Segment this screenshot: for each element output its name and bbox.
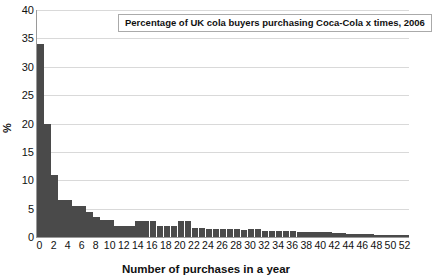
bar: [304, 232, 311, 237]
bar: [142, 221, 149, 237]
bar: [290, 231, 297, 237]
bar: [185, 221, 192, 237]
y-tick-label: 40: [12, 5, 34, 16]
bar: [395, 235, 402, 237]
bar: [367, 234, 374, 237]
bar: [248, 229, 255, 238]
y-tick-label: 5: [12, 203, 34, 214]
bar: [402, 235, 409, 237]
bar: [381, 235, 388, 237]
x-tick-label: 14: [132, 239, 144, 252]
bar: [164, 226, 171, 237]
bar: [325, 232, 332, 237]
x-tick-label: 44: [342, 239, 354, 252]
x-tick-label: 6: [79, 239, 85, 252]
y-tick-label: 25: [12, 90, 34, 101]
x-tick-label: 40: [314, 239, 326, 252]
bar: [114, 226, 121, 237]
bar: [339, 233, 346, 237]
bar: [37, 44, 44, 237]
x-tick-label: 42: [328, 239, 340, 252]
x-tick-label: 8: [93, 239, 99, 252]
x-tick-label: 34: [272, 239, 284, 252]
x-tick-label: 12: [118, 239, 130, 252]
y-tick-label: 0: [12, 232, 34, 243]
bar: [241, 230, 248, 237]
bar: [157, 226, 164, 237]
y-tick-label: 30: [12, 61, 34, 72]
bar: [255, 229, 262, 238]
x-tick-label: 52: [399, 239, 411, 252]
x-tick-label: 50: [385, 239, 397, 252]
bar: [178, 221, 185, 237]
y-tick-label: 15: [12, 146, 34, 157]
y-tick-label: 20: [12, 118, 34, 129]
y-axis-tick-labels: 0510152025303540: [12, 0, 34, 237]
x-tick-label: 46: [357, 239, 369, 252]
bar: [353, 234, 360, 237]
bar: [318, 232, 325, 237]
bar: [283, 231, 290, 237]
x-tick-label: 2: [51, 239, 57, 252]
bar: [220, 229, 227, 238]
bar: [121, 226, 128, 237]
bar: [86, 212, 93, 237]
bar: [360, 234, 367, 237]
bar: [206, 229, 213, 238]
x-tick-label: 32: [258, 239, 270, 252]
x-tick-label: 38: [300, 239, 312, 252]
bar: [332, 233, 339, 237]
bar: [65, 200, 72, 237]
gridline: [37, 237, 409, 238]
x-tick-label: 24: [202, 239, 214, 252]
bar: [171, 226, 178, 237]
bar: [374, 235, 381, 237]
x-tick-label: 10: [104, 239, 116, 252]
bar: [107, 220, 114, 237]
x-tick-label: 28: [230, 239, 242, 252]
x-tick-label: 18: [160, 239, 172, 252]
x-tick-label: 0: [37, 239, 43, 252]
bar: [72, 206, 79, 237]
bar: [234, 229, 241, 237]
x-tick-label: 16: [146, 239, 158, 252]
bar: [297, 232, 304, 237]
x-tick-label: 20: [174, 239, 186, 252]
bar: [227, 229, 234, 237]
bar: [135, 221, 142, 237]
bar-series: [37, 10, 409, 237]
bar: [199, 228, 206, 237]
bar: [93, 217, 100, 237]
x-tick-label: 36: [286, 239, 298, 252]
x-tick-label: 30: [244, 239, 256, 252]
bar: [269, 231, 276, 237]
bar: [44, 124, 51, 238]
bar: [51, 175, 58, 237]
bar: [150, 221, 157, 237]
bar: [311, 232, 318, 237]
bar: [213, 229, 220, 238]
bar: [100, 220, 107, 237]
plot-area: [36, 10, 409, 238]
bar: [276, 231, 283, 237]
chart-title: Percentage of UK cola buyers purchasing …: [118, 14, 432, 32]
x-tick-label: 4: [65, 239, 71, 252]
bar: [128, 226, 135, 237]
bar: [192, 228, 199, 237]
x-axis-tick-labels: 0246810121416182022242628303234363840424…: [36, 239, 408, 255]
bar: [58, 200, 65, 237]
y-tick-label: 10: [12, 175, 34, 186]
x-tick-label: 48: [371, 239, 383, 252]
y-tick-label: 35: [12, 33, 34, 44]
x-tick-label: 26: [216, 239, 228, 252]
bar: [388, 235, 395, 237]
x-tick-label: 22: [188, 239, 200, 252]
x-axis-title: Number of purchases in a year: [0, 262, 412, 276]
bar: [79, 206, 86, 237]
bar: [346, 234, 353, 237]
bar: [262, 231, 269, 237]
